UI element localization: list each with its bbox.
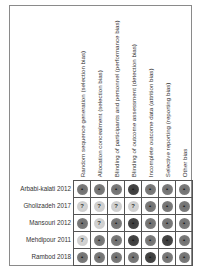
- rating-cell: ?: [91, 215, 108, 232]
- row-headers: Arbabi-kalati 2012Gholizadeh 2017Mansour…: [10, 180, 71, 265]
- rating-cell: •: [142, 249, 159, 266]
- rating-cell: •: [159, 249, 176, 266]
- high-risk-icon: •: [145, 252, 156, 263]
- low-risk-icon: •: [128, 252, 139, 263]
- column-header: Blinding of participants and personnel (…: [107, 5, 124, 177]
- unclear-risk-icon: ?: [77, 201, 88, 212]
- rating-cell: ?: [74, 198, 91, 215]
- high-risk-icon: •: [128, 184, 139, 195]
- low-risk-icon: •: [145, 235, 156, 246]
- column-header-label: Allocation concealment (selection bias): [96, 70, 102, 177]
- rating-cell: •: [91, 232, 108, 249]
- rating-cell: •: [176, 215, 193, 232]
- rating-cell: •: [125, 249, 142, 266]
- table-row: •••••••: [74, 249, 193, 266]
- unclear-risk-icon: ?: [94, 201, 105, 212]
- column-header: Allocation concealment (selection bias): [90, 5, 107, 177]
- unclear-risk-icon: ?: [128, 201, 139, 212]
- unclear-risk-icon: ?: [77, 235, 88, 246]
- high-risk-icon: •: [128, 218, 139, 229]
- rating-cell: •: [159, 181, 176, 198]
- rating-cell: ?: [74, 232, 91, 249]
- rating-cell: •: [176, 249, 193, 266]
- column-header-label: Blinding of outcome assessment (detectio…: [130, 44, 136, 177]
- rating-cell: •: [142, 215, 159, 232]
- column-header: Other bias: [175, 5, 192, 177]
- low-risk-icon: •: [94, 252, 105, 263]
- rating-cell: •: [74, 181, 91, 198]
- study-label: Arbabi-kalati 2012: [10, 180, 71, 197]
- low-risk-icon: •: [162, 218, 173, 229]
- low-risk-icon: •: [111, 218, 122, 229]
- rating-cell: •: [159, 232, 176, 249]
- low-risk-icon: •: [179, 252, 190, 263]
- rating-cell: •: [176, 198, 193, 215]
- rating-cell: •: [108, 232, 125, 249]
- high-risk-icon: •: [128, 235, 139, 246]
- column-header-label: Incomplete outcome data (attrition bias): [147, 68, 153, 177]
- rating-cell: •: [125, 215, 142, 232]
- column-header-label: Selective reporting (reporting bias): [164, 82, 170, 177]
- low-risk-icon: •: [77, 184, 88, 195]
- unclear-risk-icon: ?: [111, 201, 122, 212]
- rating-cell: •: [74, 249, 91, 266]
- low-risk-icon: •: [179, 218, 190, 229]
- low-risk-icon: •: [145, 201, 156, 212]
- rating-cell: •: [108, 215, 125, 232]
- low-risk-icon: •: [111, 235, 122, 246]
- low-risk-icon: •: [145, 218, 156, 229]
- rating-cell: •: [176, 181, 193, 198]
- low-risk-icon: •: [77, 218, 88, 229]
- unclear-risk-icon: ?: [94, 218, 105, 229]
- low-risk-icon: •: [145, 184, 156, 195]
- rating-cell: •: [108, 181, 125, 198]
- low-risk-icon: •: [94, 235, 105, 246]
- study-label: Mansouri 2012: [10, 214, 71, 231]
- rating-cell: •: [125, 232, 142, 249]
- risk-of-bias-grid: •••••••????••••?•••••?•••••••••••••: [73, 180, 193, 266]
- low-risk-icon: •: [111, 252, 122, 263]
- low-risk-icon: •: [111, 184, 122, 195]
- low-risk-icon: •: [162, 252, 173, 263]
- table-row: ?••••••: [74, 232, 193, 249]
- column-headers: Random sequence generation (selection bi…: [73, 8, 192, 180]
- rating-cell: •: [91, 249, 108, 266]
- table-row: ????•••: [74, 198, 193, 215]
- rating-cell: ?: [125, 198, 142, 215]
- rating-cell: •: [74, 215, 91, 232]
- column-header: Incomplete outcome data (attrition bias): [141, 5, 158, 177]
- low-risk-icon: •: [162, 184, 173, 195]
- rating-cell: •: [108, 249, 125, 266]
- column-header: Blinding of outcome assessment (detectio…: [124, 5, 141, 177]
- column-header-label: Other bias: [181, 148, 187, 177]
- rating-cell: •: [142, 181, 159, 198]
- column-header: Selective reporting (reporting bias): [158, 5, 175, 177]
- low-risk-icon: •: [77, 252, 88, 263]
- rating-cell: •: [142, 198, 159, 215]
- study-label: Rambod 2018: [10, 248, 71, 265]
- column-header-label: Random sequence generation (selection bi…: [79, 51, 85, 177]
- low-risk-icon: •: [162, 201, 173, 212]
- rating-cell: •: [176, 232, 193, 249]
- study-label: Gholizadeh 2017: [10, 197, 71, 214]
- table-row: •••••••: [74, 181, 193, 198]
- rating-cell: •: [125, 181, 142, 198]
- low-risk-icon: •: [179, 184, 190, 195]
- rating-cell: •: [142, 232, 159, 249]
- high-risk-icon: •: [162, 235, 173, 246]
- study-label: Mehdipour 2011: [10, 231, 71, 248]
- rating-cell: ?: [108, 198, 125, 215]
- table-row: •?•••••: [74, 215, 193, 232]
- low-risk-icon: •: [179, 235, 190, 246]
- column-header-label: Blinding of participants and personnel (…: [113, 20, 119, 177]
- column-header: Random sequence generation (selection bi…: [73, 5, 90, 177]
- rating-cell: •: [91, 181, 108, 198]
- rating-cell: •: [159, 215, 176, 232]
- rating-cell: •: [159, 198, 176, 215]
- low-risk-icon: •: [94, 184, 105, 195]
- low-risk-icon: •: [179, 201, 190, 212]
- rating-cell: ?: [91, 198, 108, 215]
